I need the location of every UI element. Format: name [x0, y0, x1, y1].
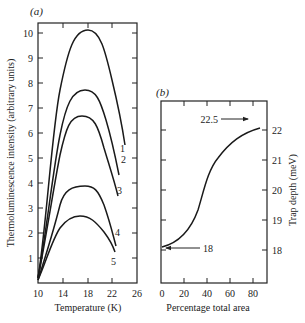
- svg-text:22: 22: [272, 125, 282, 136]
- curve-1: [38, 30, 125, 278]
- panel-a-xlabel: Temperature (K): [55, 302, 122, 314]
- svg-text:3: 3: [117, 185, 122, 196]
- panel-a-xticks: [63, 23, 112, 283]
- svg-text:9: 9: [28, 53, 33, 64]
- svg-text:1: 1: [28, 253, 33, 264]
- panel-a-curves: [38, 30, 125, 280]
- svg-text:5: 5: [28, 153, 33, 164]
- annotation-18: 18: [166, 243, 213, 254]
- panel-b-xticks: [184, 101, 253, 283]
- figure: (a) 1 2 3 4 5 6 7: [0, 0, 305, 323]
- svg-text:4: 4: [28, 178, 33, 189]
- svg-text:18: 18: [272, 245, 282, 256]
- svg-text:10: 10: [33, 288, 43, 299]
- svg-text:18: 18: [83, 288, 93, 299]
- svg-text:0: 0: [160, 288, 165, 299]
- svg-text:6: 6: [28, 128, 33, 139]
- panel-a-ytick-labels: 1 2 3 4 5 6 7 8 9 10: [23, 28, 33, 264]
- panel-a-ylabel: Thermoluminescence intensity (arbitrary …: [5, 59, 17, 248]
- panel-b-ylabel: Trap depth (meV): [287, 154, 299, 226]
- svg-text:10: 10: [23, 28, 33, 39]
- panel-a-label: (a): [30, 5, 43, 18]
- svg-text:7: 7: [28, 103, 33, 114]
- panel-b: (b) 18 19 20 21 22 0 20 40: [156, 86, 299, 313]
- annotation-22-5: 22.5: [201, 114, 249, 125]
- svg-text:80: 80: [248, 288, 258, 299]
- svg-text:18: 18: [203, 243, 213, 254]
- svg-text:5: 5: [111, 256, 116, 267]
- svg-text:19: 19: [272, 215, 282, 226]
- curve-5: [38, 216, 115, 280]
- svg-text:8: 8: [28, 78, 33, 89]
- svg-text:20: 20: [179, 288, 189, 299]
- svg-text:26: 26: [132, 288, 142, 299]
- svg-text:40: 40: [202, 288, 212, 299]
- panel-b-ytick-labels: 18 19 20 21 22: [272, 125, 282, 256]
- svg-text:3: 3: [28, 203, 33, 214]
- svg-text:60: 60: [225, 288, 235, 299]
- panel-b-xtick-labels: 0 20 40 60 80: [160, 288, 259, 299]
- svg-text:2: 2: [28, 228, 33, 239]
- panel-b-yticks: [161, 130, 267, 250]
- svg-text:20: 20: [272, 185, 282, 196]
- panel-a: (a) 1 2 3 4 5 6 7: [5, 5, 142, 314]
- trap-depth-curve: [162, 128, 260, 247]
- svg-text:4: 4: [115, 227, 120, 238]
- svg-text:22: 22: [107, 288, 117, 299]
- panel-b-label: (b): [156, 86, 169, 99]
- svg-text:21: 21: [272, 155, 282, 166]
- panel-a-xtick-labels: 10 14 18 22 26: [33, 288, 142, 299]
- svg-text:1: 1: [120, 143, 125, 154]
- panel-b-frame: [161, 101, 267, 283]
- svg-text:14: 14: [58, 288, 68, 299]
- svg-text:2: 2: [121, 154, 126, 165]
- panel-b-xlabel: Percentage total area: [166, 302, 250, 313]
- svg-text:22.5: 22.5: [201, 114, 219, 125]
